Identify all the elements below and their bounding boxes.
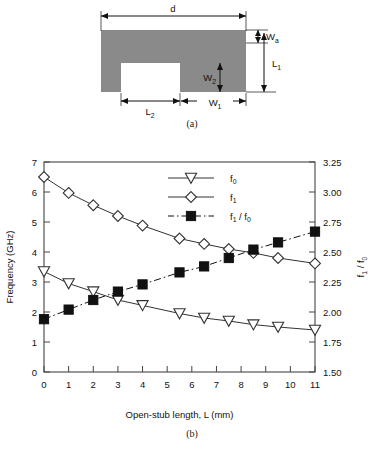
figure-container: d Wa L1 [0, 0, 384, 450]
legend-label: f0 [230, 173, 237, 186]
caption-panel-a: (a) [0, 118, 384, 129]
plot-frame [44, 162, 315, 372]
conductor-shape [101, 30, 246, 92]
y-axis-title-left: Frequency (GHz) [4, 231, 15, 304]
series-line [44, 177, 315, 263]
y-left-tick-label: 6 [32, 187, 37, 198]
legend-label: f1 / f0 [230, 211, 251, 224]
marker-square [310, 227, 319, 236]
x-tick-label: 0 [41, 379, 46, 390]
legend-item-1: f1 [168, 192, 237, 205]
y-right-tick-label: 1.75 [323, 337, 342, 348]
dimension-W1: W1 [181, 93, 246, 110]
y-left-tick-label: 7 [32, 157, 37, 168]
x-tick-label: 9 [263, 379, 268, 390]
dim-label-L2: L2 [145, 106, 154, 119]
marker-diamond [310, 258, 321, 269]
x-tick-label: 11 [310, 379, 320, 390]
x-tick-label: 1 [66, 379, 71, 390]
marker-square [113, 287, 122, 296]
marker-diamond [174, 233, 185, 244]
dimension-L2: L2 [121, 93, 180, 119]
dim-label-Wa: Wa [266, 31, 279, 44]
marker-diamond [88, 200, 99, 211]
x-tick-label: 3 [115, 379, 120, 390]
x-axis-title: Open-stub length, L (mm) [126, 409, 234, 420]
marker-square [273, 238, 282, 247]
marker-square [249, 245, 258, 254]
x-tick-label: 8 [238, 379, 243, 390]
y-right-tick-label: 2.50 [323, 247, 342, 258]
marker-triangle-down [112, 295, 123, 305]
y-left-tick-label: 3 [32, 277, 37, 288]
x-tick-label: 2 [91, 379, 96, 390]
marker-triangle-down [63, 279, 74, 289]
dim-label-L1: L1 [272, 58, 281, 71]
marker-square [64, 305, 73, 314]
y-left-tick-label: 1 [32, 337, 37, 348]
legend-item-2: f1 / f0 [168, 211, 251, 224]
marker-square [89, 295, 98, 304]
marker-triangle-down [137, 301, 148, 311]
caption-panel-b: (b) [0, 428, 384, 439]
x-tick-label: 6 [189, 379, 194, 390]
x-tick-label: 7 [214, 379, 219, 390]
y-right-tick-label: 1.50 [323, 367, 342, 378]
marker-triangle-down [38, 267, 49, 277]
x-tick-label: 10 [285, 379, 296, 390]
y-axis-title-right: f1 / f0 [355, 256, 368, 277]
y-left-tick-label: 5 [32, 217, 37, 228]
y-right-tick-label: 3.00 [323, 187, 342, 198]
y-left-tick-label: 0 [32, 367, 37, 378]
legend-label: f1 [230, 192, 237, 205]
chart-svg: 01234567891011012345671.501.752.002.252.… [0, 140, 384, 450]
marker-diamond [137, 220, 148, 231]
series-line [44, 272, 315, 331]
marker-triangle-down [309, 325, 320, 335]
marker-square [224, 253, 233, 262]
dim-label-d: d [170, 3, 175, 14]
marker-square [138, 280, 147, 289]
marker-square [186, 211, 195, 220]
panel-b-chart: 01234567891011012345671.501.752.002.252.… [0, 140, 384, 450]
marker-diamond [186, 192, 197, 203]
legend-item-0: f0 [168, 173, 237, 186]
dimension-d: d [101, 3, 246, 31]
marker-diamond [63, 188, 74, 199]
y-right-tick-label: 2.00 [323, 307, 342, 318]
y-right-tick-label: 2.75 [323, 217, 342, 228]
marker-diamond [113, 211, 124, 222]
marker-square [200, 262, 209, 271]
marker-diamond [273, 253, 284, 264]
x-tick-label: 4 [140, 379, 145, 390]
series-f1 [39, 172, 321, 269]
y-right-tick-label: 3.25 [323, 157, 342, 168]
marker-square [39, 315, 48, 324]
chart-legend: f0f1f1 / f0 [168, 173, 251, 224]
marker-diamond [223, 244, 234, 255]
x-tick-label: 5 [165, 379, 170, 390]
marker-diamond [39, 172, 50, 183]
marker-diamond [199, 239, 210, 250]
y-right-tick-label: 2.25 [323, 277, 342, 288]
marker-square [175, 268, 184, 277]
y-left-tick-label: 2 [32, 307, 37, 318]
y-left-tick-label: 4 [32, 247, 37, 258]
